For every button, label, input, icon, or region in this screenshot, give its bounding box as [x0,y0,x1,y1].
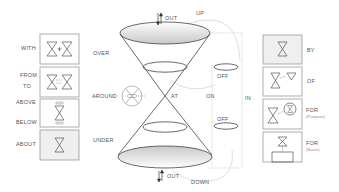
off-top-ellipse [214,64,238,70]
label-for-basis-main: FOR [306,140,318,146]
label-on: ON [206,94,215,100]
label-out-bottom: OUT [167,174,179,180]
off-bottom-ellipse [214,123,238,129]
label-at: AT [171,94,178,100]
hourglass-diagram [0,0,339,192]
label-about: ABOUT [16,142,36,148]
label-under: UNDER [93,138,114,144]
label-over: OVER [93,51,109,57]
label-off-bottom: OFF [217,117,229,123]
left-boxes [40,34,79,160]
label-for-basis: FOR (Basis) [306,141,320,152]
label-from: FROM [20,73,37,79]
bottom-cone [118,96,212,168]
label-off-top: OFF [217,74,229,80]
label-up: UP [196,11,204,17]
right-boxes [263,35,302,162]
label-down: DOWN [191,180,209,186]
label-above: ABOVE [16,100,36,106]
label-for-purpose-main: FOR [306,107,318,113]
around-icon [122,86,145,106]
dashed-guides [208,33,242,168]
label-of: OF [307,79,315,85]
top-cone [120,22,210,96]
label-around: AROUND [92,94,117,100]
out-arrows-bottom-icon [158,170,164,182]
label-to: TO [23,84,31,90]
label-by: BY [307,48,315,54]
label-in: IN [245,96,251,102]
label-for-purpose: FOR (Purpose) [306,108,325,119]
label-below: BELOW [16,120,37,126]
label-out-top: OUT [165,16,177,22]
label-for-basis-sub: (Basis) [306,148,320,152]
label-for-purpose-sub: (Purpose) [306,115,325,119]
label-with: WITH [21,46,36,52]
